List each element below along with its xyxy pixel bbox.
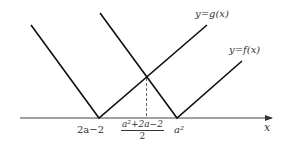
label-y-equals-g-x: y=g(x) bbox=[195, 9, 229, 19]
label-y-equals-f-x: y=f(x) bbox=[229, 45, 260, 55]
x-axis-label: x bbox=[264, 122, 270, 133]
curve-f bbox=[100, 13, 242, 118]
fraction-numerator: a²+2a−2 bbox=[121, 120, 164, 131]
tick-label-a-squared: a² bbox=[174, 125, 184, 135]
tick-label-2a-minus-2: 2a−2 bbox=[77, 125, 104, 135]
fraction-denominator: 2 bbox=[140, 131, 146, 141]
tick-label-midpoint-fraction: a²+2a−2 2 bbox=[121, 120, 164, 141]
